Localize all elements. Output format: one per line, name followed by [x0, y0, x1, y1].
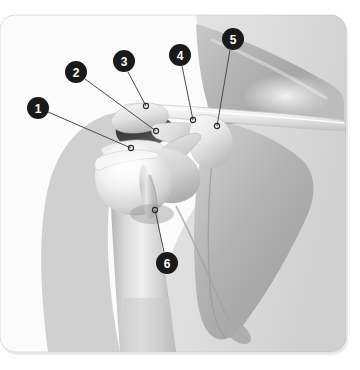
joint-shadow	[130, 204, 174, 224]
callout-marker-5-circle[interactable]	[222, 28, 244, 50]
callout-marker-2-circle[interactable]	[65, 61, 87, 83]
callout-marker-1-circle[interactable]	[27, 97, 49, 119]
callout-marker-4-circle[interactable]	[169, 44, 191, 66]
callout-marker-1[interactable]: 1	[27, 97, 49, 119]
callout-marker-3[interactable]: 3	[113, 50, 135, 72]
callout-marker-3-circle[interactable]	[113, 50, 135, 72]
callout-marker-6-circle[interactable]	[156, 252, 178, 274]
callout-marker-6[interactable]: 6	[156, 252, 178, 274]
highlight-glow-head	[104, 150, 156, 186]
figure-root: 1 2 3 4 5 6	[0, 0, 360, 370]
shoulder-anatomy-illustration: 1 2 3 4 5 6	[0, 0, 360, 370]
callout-marker-4[interactable]: 4	[169, 44, 191, 66]
highlight-glow-blade	[242, 74, 330, 118]
callout-marker-5[interactable]: 5	[222, 28, 244, 50]
humerus-distal-shadow	[120, 298, 176, 352]
callout-marker-2[interactable]: 2	[65, 61, 87, 83]
